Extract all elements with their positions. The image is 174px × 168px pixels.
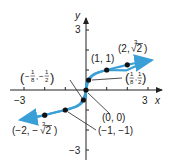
svg-text:1: 1 bbox=[130, 71, 134, 77]
point-neg2-neg-cbrt2 bbox=[42, 113, 47, 118]
cube-root-graph: −3 3 x 3 y −3 (1, 1) (2, 3 √2 ) ( 1 8 , bbox=[0, 0, 174, 168]
svg-text:−: − bbox=[39, 72, 44, 81]
point-eighth-half bbox=[86, 77, 91, 82]
svg-text:): ) bbox=[142, 70, 146, 85]
label-neg1-neg1: (−1, −1) bbox=[98, 125, 133, 136]
svg-text:√2: √2 bbox=[40, 125, 51, 136]
svg-text:(2,: (2, bbox=[118, 43, 130, 54]
x-max-label: 3 bbox=[142, 95, 148, 106]
svg-text:): ) bbox=[50, 70, 54, 85]
label-neg2-neg-cbrt2: (−2, − 3 √2 ) bbox=[12, 121, 57, 136]
point-2-cbrt2 bbox=[125, 62, 130, 67]
label-0-0: (0, 0) bbox=[102, 112, 125, 123]
svg-text:,: , bbox=[135, 74, 137, 81]
y-max-label: 3 bbox=[75, 24, 81, 35]
graph-canvas: −3 3 x 3 y −3 (1, 1) (2, 3 √2 ) ( 1 8 , bbox=[0, 0, 174, 168]
point-neg-eighth-neg-half bbox=[81, 97, 86, 102]
x-axis-label: x bbox=[154, 95, 161, 106]
point-1-1 bbox=[104, 67, 109, 72]
svg-text:2: 2 bbox=[45, 77, 49, 83]
svg-text:,: , bbox=[36, 72, 38, 81]
x-min-label: −3 bbox=[14, 95, 26, 106]
svg-text:1: 1 bbox=[31, 69, 35, 75]
point-0-0 bbox=[83, 87, 88, 92]
svg-text:1: 1 bbox=[45, 69, 49, 75]
label-2-cbrt2: (2, 3 √2 ) bbox=[118, 39, 147, 54]
label-neg-eighth-neg-half: ( − 1 8 , − 1 2 ) bbox=[20, 69, 54, 85]
label-1-1: (1, 1) bbox=[91, 53, 114, 64]
svg-text:−: − bbox=[25, 72, 30, 81]
svg-text:√2: √2 bbox=[131, 43, 142, 54]
svg-text:8: 8 bbox=[130, 79, 134, 85]
svg-text:): ) bbox=[54, 125, 57, 136]
label-eighth-half: ( 1 8 , 1 2 ) bbox=[125, 70, 146, 85]
point-neg1-neg1 bbox=[63, 107, 68, 112]
svg-text:): ) bbox=[144, 43, 147, 54]
svg-text:8: 8 bbox=[31, 77, 35, 83]
y-min-label: −3 bbox=[69, 145, 81, 156]
y-axis-label: y bbox=[74, 10, 81, 21]
svg-text:(−2, −: (−2, − bbox=[12, 125, 38, 136]
